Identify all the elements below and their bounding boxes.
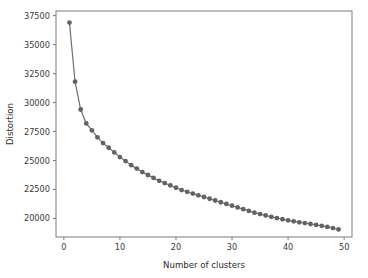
y-tick-label: 32500	[24, 69, 50, 79]
data-point-23	[190, 191, 195, 196]
data-point-1	[67, 20, 72, 25]
data-point-47	[325, 225, 330, 230]
y-tick-label: 30000	[24, 98, 50, 108]
data-point-33	[246, 209, 251, 214]
data-point-28	[218, 200, 223, 205]
y-tick-label: 35000	[24, 40, 50, 50]
data-point-21	[179, 188, 184, 193]
data-point-8	[106, 145, 111, 150]
data-point-46	[319, 223, 324, 228]
data-point-39	[280, 217, 285, 222]
data-point-42	[297, 220, 302, 225]
data-point-44	[308, 222, 313, 227]
data-point-37	[269, 214, 274, 219]
data-point-48	[331, 226, 336, 231]
data-point-40	[286, 218, 291, 223]
y-tick-label: 37500	[24, 11, 50, 21]
data-point-41	[291, 219, 296, 224]
y-axis-title: Distortion	[5, 103, 15, 145]
y-tick-label: 20000	[24, 213, 50, 223]
x-axis-title: Number of clusters	[163, 260, 245, 270]
data-point-27	[213, 198, 218, 203]
data-point-24	[196, 193, 201, 198]
data-point-3	[78, 107, 83, 112]
data-point-13	[134, 166, 139, 171]
data-point-38	[274, 216, 279, 221]
data-point-2	[73, 79, 78, 84]
x-tick-label: 50	[339, 242, 349, 252]
data-point-30	[230, 203, 235, 208]
data-point-26	[207, 196, 212, 201]
data-point-5	[89, 128, 94, 133]
data-point-12	[129, 163, 134, 168]
chart-canvas: 01020304050 2000022500250002750030000325…	[0, 0, 368, 278]
data-point-35	[258, 212, 263, 217]
data-point-43	[303, 221, 308, 226]
data-point-6	[95, 135, 100, 140]
data-point-4	[84, 121, 89, 126]
data-point-49	[336, 227, 341, 232]
x-tick-label: 30	[227, 242, 237, 252]
data-point-10	[118, 155, 123, 160]
data-point-19	[168, 183, 173, 188]
data-point-14	[140, 170, 145, 175]
data-point-7	[101, 141, 106, 146]
data-point-18	[162, 181, 167, 186]
y-tick-label: 25000	[24, 156, 50, 166]
data-point-32	[241, 207, 246, 212]
data-point-17	[157, 178, 162, 183]
data-point-25	[202, 195, 207, 200]
data-point-20	[174, 185, 179, 190]
x-tick-label: 40	[283, 242, 293, 252]
x-tick-label: 10	[115, 242, 125, 252]
data-point-36	[263, 213, 268, 218]
data-point-9	[112, 150, 117, 155]
elbow-plot-figure: 01020304050 2000022500250002750030000325…	[0, 0, 368, 278]
data-point-45	[314, 223, 319, 228]
data-point-31	[235, 205, 240, 210]
data-point-11	[123, 159, 128, 164]
y-tick-label: 22500	[24, 184, 50, 194]
data-point-22	[185, 189, 190, 194]
y-tick-label: 27500	[24, 127, 50, 137]
data-point-29	[224, 202, 229, 207]
x-tick-label: 0	[61, 242, 66, 252]
data-point-15	[146, 173, 151, 178]
figure-background	[0, 0, 368, 278]
x-tick-label: 20	[171, 242, 181, 252]
data-point-16	[151, 175, 156, 180]
data-point-34	[252, 210, 257, 215]
